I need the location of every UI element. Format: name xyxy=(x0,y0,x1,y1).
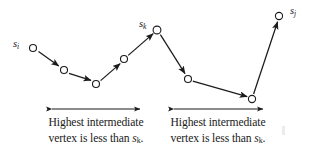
vertex-v6 xyxy=(185,76,192,83)
node-label-s-i-subscript: i xyxy=(17,42,19,51)
caption-right-line1: Highest intermediate xyxy=(156,115,280,131)
node-label-s-k: sk xyxy=(139,18,146,31)
edge-v2-v3 xyxy=(69,73,91,80)
edge-v6-v7 xyxy=(193,81,247,96)
edge-sk-v6 xyxy=(160,35,185,74)
edge-v3-v4 xyxy=(101,64,121,81)
vertex-s-j xyxy=(275,12,282,19)
edge-v7-sj xyxy=(254,22,278,94)
node-label-s-j: sj xyxy=(290,5,296,18)
node-label-s-j-subscript: j xyxy=(294,9,296,18)
caption-right-line2-prefix: vertex is less than xyxy=(171,132,255,145)
vertex-s-k xyxy=(153,26,161,34)
caption-left-line2-suffix: . xyxy=(141,132,144,145)
caption-left-line2: vertex is less than sk. xyxy=(34,131,158,149)
vertex-v2 xyxy=(61,67,68,74)
path-vertices xyxy=(30,12,283,102)
caption-right-line2-suffix: . xyxy=(263,132,266,145)
vertex-s-i xyxy=(30,45,37,52)
edge-v4-sk xyxy=(128,34,153,56)
vertex-v3 xyxy=(93,81,100,88)
edge-si-v2 xyxy=(39,52,59,67)
scan-artifact xyxy=(282,126,285,135)
node-label-s-i: si xyxy=(13,38,19,51)
vertex-v7 xyxy=(248,95,255,102)
caption-right-line2: vertex is less than sk. xyxy=(156,131,280,149)
caption-left-line2-prefix: vertex is less than xyxy=(49,132,133,145)
caption-right: Highest intermediate vertex is less than… xyxy=(156,115,280,148)
node-label-s-k-subscript: k xyxy=(143,22,146,31)
caption-left: Highest intermediate vertex is less than… xyxy=(34,115,158,148)
vertex-v4 xyxy=(121,56,128,63)
caption-left-line1: Highest intermediate xyxy=(34,115,158,131)
path-diagram-figure: si sk sj Highest intermediate vertex is … xyxy=(0,0,316,153)
